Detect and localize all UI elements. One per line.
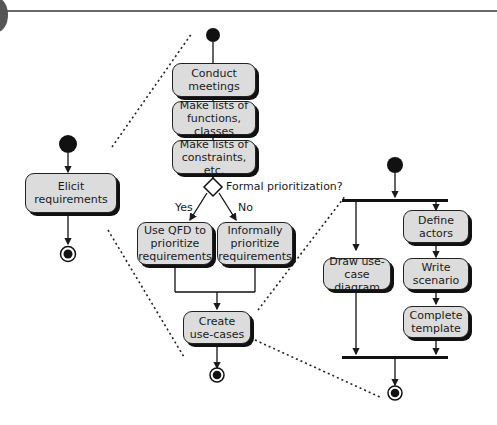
activity-complete-template: Completetemplate — [403, 306, 469, 338]
activity-label: Use QFD to — [138, 224, 212, 237]
decision-label: Formal prioritization? — [226, 180, 343, 193]
activity-make-lists-constraints: Make lists ofconstraints, etc. — [172, 140, 256, 174]
activity-create-use-cases: Createuse-cases — [183, 311, 251, 344]
yes-label: Yes — [175, 201, 193, 214]
activity-label: requirements — [218, 250, 292, 263]
activity-label: template — [409, 322, 462, 335]
activity-make-lists-functions: Make lists offunctions, classes — [172, 101, 256, 135]
initial-node — [59, 135, 77, 153]
initial-node — [387, 157, 403, 173]
activity-label: Write — [413, 261, 460, 274]
activity-label: diagram — [327, 281, 387, 294]
initial-node — [206, 28, 220, 42]
no-label: No — [238, 201, 253, 214]
activity-label: actors — [418, 227, 454, 240]
activity-label: prioritize — [138, 237, 212, 250]
activity-conduct-meetings: Conductmeetings — [172, 63, 256, 97]
activity-label: meetings — [188, 80, 239, 93]
activity-label: Define — [418, 214, 454, 227]
activity-define-actors: Defineactors — [403, 210, 469, 243]
activity-label: Draw use-case — [327, 255, 387, 281]
activity-label: Make lists of — [176, 138, 252, 151]
activity-label: Make lists of — [176, 99, 252, 112]
activity-label: constraints, etc. — [176, 151, 252, 177]
activity-informally-prioritize: Informallyprioritizerequirements — [217, 222, 293, 265]
activity-label: prioritize — [218, 237, 292, 250]
activity-write-scenario: Writescenario — [403, 258, 469, 290]
activity-label: requirements — [138, 250, 212, 263]
activity-use-qfd: Use QFD toprioritizerequirements — [137, 222, 213, 265]
activity-elicit-requirements: Elicit requirements — [25, 173, 117, 213]
activity-label: Elicit requirements — [29, 180, 113, 206]
activity-label: Create — [190, 315, 244, 328]
fork-bar — [342, 199, 448, 202]
activity-label: functions, classes — [176, 112, 252, 138]
join-bar — [342, 356, 448, 359]
activity-label: Complete — [409, 309, 462, 322]
activity-label: use-cases — [190, 328, 244, 341]
activity-label: Conduct — [188, 67, 239, 80]
activity-label: scenario — [413, 274, 460, 287]
activity-draw-use-case-diagram: Draw use-casediagram — [323, 258, 391, 290]
activity-label: Informally — [218, 224, 292, 237]
